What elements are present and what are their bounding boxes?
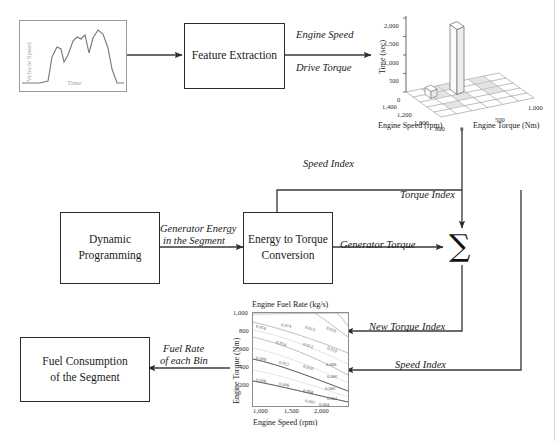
box-feature-extraction-line-1: Feature Extraction [192, 48, 277, 64]
label-speed-index-top: Speed Index [303, 157, 354, 171]
contour-label: 0.006 [325, 386, 335, 391]
chart3-plot-area: 0.016 0.014 0.012 0.010 0.014 0.012 0.01… [252, 312, 349, 407]
label-engine-speed: Engine Speed [296, 28, 353, 42]
label-drive-torque: Drive Torque [296, 61, 352, 75]
label-speed-index-bottom: Speed Index [395, 358, 446, 372]
chart2-ztick-1000: 1,000 [384, 59, 399, 66]
arrow-speed-index-bottom [346, 190, 521, 370]
box-fuel-consumption[interactable]: Fuel Consumption of the Segment [20, 337, 150, 402]
chart3-title: Engine Fuel Rate (kg/s) [252, 300, 328, 309]
chart2-xlabel: Engine Speed (rpm) [378, 121, 442, 130]
chart2-ztick-0: 0 [397, 96, 400, 103]
label-new-torque-index: New Torque Index [369, 320, 445, 334]
summation-node: ∑ [449, 231, 470, 261]
chart3-xlabel: Engine Speed (rpm) [253, 418, 317, 427]
chart2-xtick-1200: 1,200 [397, 111, 412, 118]
box-energy-to-torque-conversion[interactable]: Energy to Torque Conversion [243, 212, 333, 284]
chart3-ytick-400: 400 [239, 363, 249, 370]
contour-label: 0.008 [326, 362, 336, 367]
chart3-xtick-2000: 2,000 [314, 407, 329, 414]
chart2-ytick-1000: 1,000 [528, 104, 543, 111]
chart2-ztick-2000: 2,000 [384, 22, 399, 29]
box-fuel-line-1: Fuel Consumption [42, 354, 127, 370]
chart3-ytick-1000: 1,000 [233, 309, 248, 316]
label-fuel-rate-line2: of each Bin [160, 354, 208, 368]
surface-bar-peak [450, 22, 464, 95]
chart1-ylabel: Vehicle Speed [25, 42, 33, 82]
box-dynamic-programming[interactable]: Dynamic Programming [60, 212, 160, 284]
contour-label: 0.006 [327, 374, 337, 379]
box-etc-line-2: Conversion [261, 248, 314, 264]
box-dp-line-1: Dynamic [89, 232, 131, 248]
vehicle-speed-polyline [22, 30, 124, 83]
label-generator-torque: Generator Torque [340, 238, 415, 252]
chart3-xtick-1000: 1,000 [253, 407, 268, 414]
chart3-xtick-1500: 1,500 [284, 407, 299, 414]
chart2-ylabel: Engine Torque (Nm) [473, 121, 539, 130]
box-feature-extraction[interactable]: Feature Extraction [184, 23, 285, 89]
box-fuel-line-2: of the Segment [50, 370, 120, 386]
chart2-ztick-500: 500 [389, 77, 399, 84]
chart-engine-fuel-rate-map: Engine Fuel Rate (kg/s) [228, 300, 353, 435]
chart-vehicle-speed-trace: Vehicle Speed Time [19, 20, 127, 92]
chart1-xlabel: Time [67, 79, 82, 87]
box-etc-line-1: Energy to Torque [248, 232, 328, 248]
contour-label: 0.004 [327, 396, 337, 401]
box-dp-line-2: Programming [78, 248, 141, 264]
chart3-ytick-200: 200 [239, 381, 249, 388]
surface-3d-svg [378, 8, 553, 128]
chart3-ytick-600: 600 [239, 345, 249, 352]
label-torque-index: Torque Index [400, 188, 455, 202]
chart2-ztick-1500: 1,500 [384, 40, 399, 47]
chart2-ytick-0: 0 [460, 125, 463, 132]
chart2-xtick-1400: 1,400 [382, 103, 397, 110]
chart-engine-operating-time: Time (sec) 2,000 1,500 1,000 500 0 1,400… [378, 8, 553, 128]
diagram-canvas: Vehicle Speed Time Feature Extraction En… [0, 0, 555, 441]
label-generator-energy-line2: in the Segment [163, 234, 225, 248]
chart3-ytick-800: 800 [239, 327, 249, 334]
